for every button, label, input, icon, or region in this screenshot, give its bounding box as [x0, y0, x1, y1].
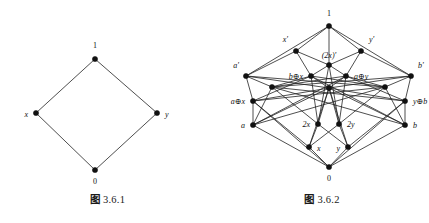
hasse-node	[358, 48, 363, 53]
caption-label-cjk: 图	[304, 193, 314, 205]
caption-number: 3.6.2	[318, 194, 340, 205]
hasse-node-label: a⊕x	[231, 97, 246, 106]
hasse-node	[336, 121, 341, 126]
figure-caption-361: 图3.6.1	[0, 191, 215, 206]
hasse-node-label: y'	[368, 35, 375, 44]
hasse-edge	[272, 87, 318, 124]
hasse-node	[293, 48, 298, 53]
hasse-node	[408, 73, 413, 78]
hasse-edge	[339, 87, 385, 124]
hasse-node	[92, 167, 97, 172]
hasse-edge	[253, 101, 329, 167]
hasse-node-label: b⊕x	[289, 72, 304, 81]
hasse-node-label: 2y	[347, 120, 355, 129]
hasse-edge	[246, 76, 253, 101]
figure-panel-361: 1xy0 图3.6.1	[0, 0, 215, 223]
caption-label-cjk: 图	[90, 193, 100, 205]
hasse-node	[308, 73, 313, 78]
hasse-node-label: x	[316, 144, 321, 153]
hasse-node	[402, 98, 407, 103]
hasse-node	[250, 98, 255, 103]
caption-number: 3.6.1	[103, 194, 125, 205]
hasse-node-label: a⊕y	[354, 72, 369, 81]
hasse-edge	[329, 26, 411, 76]
hasse-node	[345, 144, 350, 149]
hasse-edge	[36, 113, 95, 170]
hasse-diagram-361: 1xy0	[0, 0, 215, 186]
hasse-node	[306, 144, 311, 149]
hasse-node-label: 0	[93, 177, 97, 186]
hasse-node	[154, 110, 159, 115]
node-group: 1xy0	[23, 41, 169, 186]
figure-page: 1xy0 图3.6.1 1x'(2x)'y'a'b⊕xa⊕yb'a⊕xy⊕ba2…	[0, 0, 429, 223]
hasse-node	[243, 73, 248, 78]
hasse-node-label: a	[241, 121, 245, 130]
hasse-node	[269, 84, 274, 89]
hasse-node	[326, 23, 331, 28]
hasse-node	[33, 110, 38, 115]
hasse-node	[326, 164, 331, 169]
hasse-edge	[385, 87, 405, 125]
hasse-edge	[95, 113, 157, 170]
hasse-node-label: 2x	[302, 120, 310, 129]
hasse-node	[343, 73, 348, 78]
hasse-node	[250, 122, 255, 127]
hasse-edge	[329, 26, 361, 51]
hasse-edge	[253, 87, 272, 125]
hasse-edge	[329, 65, 346, 76]
hasse-node	[402, 122, 407, 127]
hasse-node	[326, 62, 331, 67]
hasse-edge	[329, 101, 405, 167]
figure-caption-362: 图3.6.2	[215, 191, 429, 206]
hasse-edge	[311, 65, 329, 76]
hasse-node	[326, 85, 331, 90]
hasse-node-label: 1	[93, 41, 97, 50]
hasse-node-label: y	[164, 110, 169, 119]
hasse-node-label: 1	[327, 9, 331, 18]
hasse-diagram-362: 1x'(2x)'y'a'b⊕xa⊕yb'a⊕xy⊕ba2x2ybxy0	[215, 0, 429, 186]
hasse-node-label: b	[413, 121, 417, 130]
hasse-edge	[95, 59, 157, 113]
hasse-node-label: b'	[418, 61, 424, 70]
edge-group	[246, 26, 411, 167]
hasse-node-label: 0	[327, 174, 331, 183]
hasse-node-label: a'	[233, 61, 239, 70]
hasse-edge	[296, 26, 329, 51]
hasse-node-label: (2x)'	[322, 51, 337, 60]
hasse-edge	[246, 26, 329, 76]
hasse-edge	[405, 76, 411, 101]
hasse-node-label: x'	[282, 35, 289, 44]
hasse-node-label: y⊕b	[412, 97, 427, 106]
hasse-edge	[361, 51, 411, 76]
hasse-node-label: y	[335, 144, 340, 153]
hasse-node	[92, 56, 97, 61]
hasse-node	[315, 121, 320, 126]
figure-panel-362: 1x'(2x)'y'a'b⊕xa⊕yb'a⊕xy⊕ba2x2ybxy0 图3.6…	[215, 0, 429, 223]
hasse-edge	[36, 59, 95, 113]
hasse-node	[382, 84, 387, 89]
hasse-node-label: x	[23, 110, 28, 119]
edge-group	[36, 59, 157, 170]
